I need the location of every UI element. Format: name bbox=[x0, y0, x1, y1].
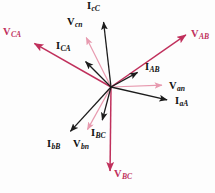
phasor-label-i-ca: ICA bbox=[56, 41, 70, 52]
phasor-label-v-bn-subscript: bn bbox=[81, 142, 89, 151]
phasor-label-i-bc: IBC bbox=[91, 128, 105, 139]
phasor-label-v-cn-symbol: V bbox=[67, 16, 75, 27]
phasor-label-v-ca: VCA bbox=[3, 27, 21, 38]
phasor-vector-i-cc bbox=[104, 22, 111, 87]
phasor-label-i-ca-subscript: CA bbox=[60, 44, 70, 53]
phasor-label-v-an-symbol: V bbox=[169, 80, 177, 91]
phasor-label-v-ab-symbol: V bbox=[191, 28, 199, 39]
phasor-label-i-ab-subscript: AB bbox=[149, 65, 159, 74]
phasor-label-v-an-subscript: an bbox=[177, 84, 185, 93]
phasor-label-i-bc-subscript: BC bbox=[95, 131, 105, 140]
phasor-vector-v-bc bbox=[110, 87, 111, 171]
phasor-label-v-bn-symbol: V bbox=[73, 138, 81, 149]
phasor-label-v-cn-subscript: cn bbox=[75, 20, 83, 29]
phasor-vector-i-ab bbox=[111, 72, 138, 87]
phasor-label-i-bb-subscript: bB bbox=[51, 142, 60, 151]
phasor-label-i-aa-subscript: aA bbox=[179, 99, 188, 108]
phasor-label-v-an: Van bbox=[169, 81, 185, 92]
phasor-label-v-bc: VBC bbox=[114, 169, 132, 180]
phasor-label-v-ab: VAB bbox=[191, 29, 209, 40]
phasor-label-i-ab: IAB bbox=[145, 62, 159, 73]
phasor-label-i-cc-subscript: cC bbox=[91, 4, 99, 13]
phasor-label-i-cc: IcC bbox=[87, 1, 100, 12]
phasor-vector-i-aa bbox=[111, 87, 167, 100]
phasor-label-i-bb: IbB bbox=[47, 139, 60, 150]
phasor-label-i-aa: IaA bbox=[175, 96, 188, 107]
phasor-diagram-figure: VAB VBC VCA Van Vbn Vcn IaA IbB IcC IAB … bbox=[0, 0, 215, 193]
phasor-label-v-ca-symbol: V bbox=[3, 26, 11, 37]
phasor-label-v-bc-symbol: V bbox=[114, 168, 122, 179]
phasor-label-v-bn: Vbn bbox=[73, 139, 89, 150]
phasor-label-v-bc-subscript: BC bbox=[122, 172, 132, 181]
phasor-label-v-ca-subscript: CA bbox=[11, 30, 21, 39]
phasor-label-v-cn: Vcn bbox=[67, 17, 82, 28]
phasor-vector-v-an bbox=[111, 85, 162, 87]
phasor-label-v-ab-subscript: AB bbox=[199, 32, 209, 41]
